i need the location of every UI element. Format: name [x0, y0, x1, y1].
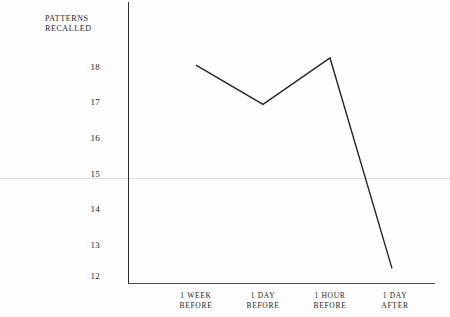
- patterns-recalled-line: [196, 58, 392, 268]
- y-axis-caption-line-1: PATTERNS: [45, 14, 92, 24]
- x-tick-label-4-line-2: AFTER: [355, 301, 435, 311]
- y-tick-label-13: 13: [74, 241, 100, 250]
- chart-screenshot: PATTERNS RECALLED 18 17 16 15 14 13 12 1…: [0, 0, 450, 317]
- y-tick-label-18: 18: [74, 63, 100, 72]
- y-tick-label-16: 16: [74, 134, 100, 143]
- y-tick-label-12: 12: [74, 272, 100, 281]
- y-tick-label-15: 15: [74, 170, 100, 179]
- y-axis-caption-line-2: RECALLED: [45, 24, 92, 34]
- y-axis-caption: PATTERNS RECALLED: [45, 14, 92, 34]
- x-tick-label-1-day-after: 1 DAY AFTER: [355, 291, 435, 311]
- y-axis-line: [128, 2, 129, 284]
- x-axis-line: [128, 283, 435, 284]
- y-tick-label-14: 14: [74, 205, 100, 214]
- y-tick-label-17: 17: [74, 98, 100, 107]
- data-line-layer: [0, 0, 450, 317]
- scan-artifact-line: [0, 178, 450, 179]
- x-tick-label-4-line-1: 1 DAY: [355, 291, 435, 301]
